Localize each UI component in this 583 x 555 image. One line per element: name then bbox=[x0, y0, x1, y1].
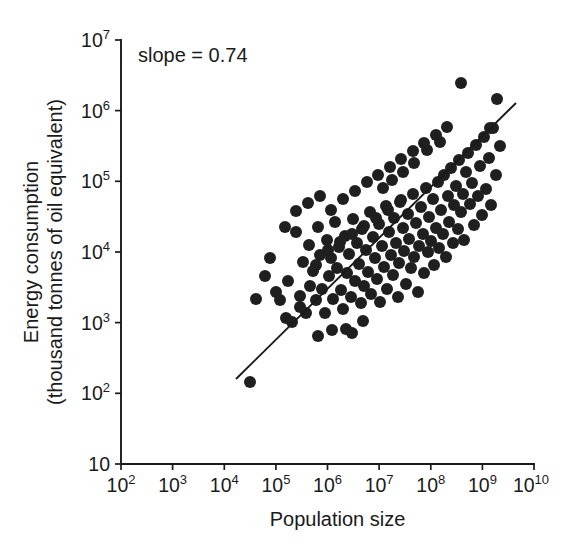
x-tick-label-100000: 105 bbox=[261, 472, 290, 496]
regression-line bbox=[236, 103, 516, 379]
data-point bbox=[371, 273, 383, 285]
data-point bbox=[440, 251, 452, 263]
data-point bbox=[428, 259, 440, 271]
data-point bbox=[437, 228, 449, 240]
data-point bbox=[474, 160, 486, 172]
energy-population-scatter-figure: 10102103104105106107 1021031041051061071… bbox=[0, 0, 583, 555]
data-point bbox=[294, 290, 306, 302]
data-point bbox=[353, 258, 365, 270]
data-point bbox=[397, 222, 409, 234]
x-tick-label-1000000000: 109 bbox=[468, 472, 497, 496]
x-tick-label-10000000000: 1010 bbox=[513, 472, 549, 496]
data-point bbox=[279, 221, 291, 233]
data-point bbox=[297, 256, 309, 268]
data-point bbox=[372, 169, 384, 181]
y-tick-label-10000: 104 bbox=[81, 239, 110, 263]
data-point bbox=[412, 286, 424, 298]
x-tick-label-1000000: 106 bbox=[313, 472, 342, 496]
data-point bbox=[460, 166, 472, 178]
slope-annotation: slope = 0.74 bbox=[138, 44, 248, 66]
data-point bbox=[270, 286, 282, 298]
data-point bbox=[452, 223, 464, 235]
data-point bbox=[430, 129, 442, 141]
data-point bbox=[378, 261, 390, 273]
data-point bbox=[435, 204, 447, 216]
data-point bbox=[367, 231, 379, 243]
data-point bbox=[447, 237, 459, 249]
data-point bbox=[346, 228, 358, 240]
data-point bbox=[259, 270, 271, 282]
data-point bbox=[335, 284, 347, 296]
data-point bbox=[468, 219, 480, 231]
y-tick-label-100000: 105 bbox=[81, 168, 110, 192]
data-point bbox=[458, 234, 470, 246]
data-point bbox=[312, 221, 324, 233]
data-point bbox=[345, 291, 357, 303]
data-point bbox=[392, 291, 404, 303]
data-point bbox=[483, 152, 495, 164]
data-point bbox=[384, 161, 396, 173]
x-tick-label-100000000: 108 bbox=[416, 472, 445, 496]
data-point bbox=[403, 233, 415, 245]
data-point bbox=[405, 262, 417, 274]
data-point bbox=[415, 201, 427, 213]
data-point bbox=[303, 239, 315, 251]
data-point bbox=[358, 220, 370, 232]
data-point bbox=[386, 174, 398, 186]
x-axis-tick-labels: 1021031041051061071081091010 bbox=[107, 472, 550, 496]
data-point bbox=[347, 213, 359, 225]
y-axis-title-line1: Energy consumption bbox=[20, 161, 42, 343]
data-point bbox=[490, 169, 502, 181]
data-point bbox=[427, 193, 439, 205]
data-point bbox=[244, 376, 256, 388]
data-point bbox=[314, 190, 326, 202]
data-point bbox=[382, 204, 394, 216]
data-point bbox=[282, 275, 294, 287]
data-point bbox=[319, 307, 331, 319]
data-point bbox=[394, 196, 406, 208]
y-tick-label-10000000: 107 bbox=[81, 27, 110, 51]
data-point bbox=[457, 188, 469, 200]
data-point bbox=[408, 251, 420, 263]
x-tick-label-10000000: 107 bbox=[365, 472, 394, 496]
data-point bbox=[337, 193, 349, 205]
data-point bbox=[400, 278, 412, 290]
data-point bbox=[398, 245, 410, 257]
y-tick-label-1000000: 106 bbox=[81, 98, 110, 122]
y-tick-label-10: 10 bbox=[88, 453, 110, 475]
data-point bbox=[387, 269, 399, 281]
data-point bbox=[325, 204, 337, 216]
scatter-data-points bbox=[244, 77, 506, 388]
data-point bbox=[326, 324, 338, 336]
data-point bbox=[455, 77, 467, 89]
data-point bbox=[491, 93, 503, 105]
data-point bbox=[369, 252, 381, 264]
data-point bbox=[374, 296, 386, 308]
data-point bbox=[290, 205, 302, 217]
data-point bbox=[377, 182, 389, 194]
data-point bbox=[407, 145, 419, 157]
data-point bbox=[312, 330, 324, 342]
scatter-plot-svg: 10102103104105106107 1021031041051061071… bbox=[0, 0, 583, 555]
data-point bbox=[322, 244, 334, 256]
data-point bbox=[355, 297, 367, 309]
data-point bbox=[441, 121, 453, 133]
data-point bbox=[455, 206, 467, 218]
data-point bbox=[302, 197, 314, 209]
data-point bbox=[310, 259, 322, 271]
y-tick-label-1000: 103 bbox=[81, 310, 110, 334]
data-point bbox=[410, 217, 422, 229]
data-point bbox=[485, 199, 497, 211]
data-point bbox=[334, 236, 346, 248]
data-point bbox=[327, 293, 339, 305]
data-point bbox=[280, 312, 292, 324]
data-point bbox=[361, 176, 373, 188]
y-tick-label-100: 102 bbox=[81, 380, 110, 404]
data-point bbox=[395, 153, 407, 165]
data-point bbox=[337, 303, 349, 315]
data-point bbox=[343, 248, 355, 260]
data-point bbox=[381, 283, 393, 295]
x-tick-label-10000: 104 bbox=[210, 472, 239, 496]
data-point bbox=[329, 216, 341, 228]
data-point bbox=[476, 209, 488, 221]
